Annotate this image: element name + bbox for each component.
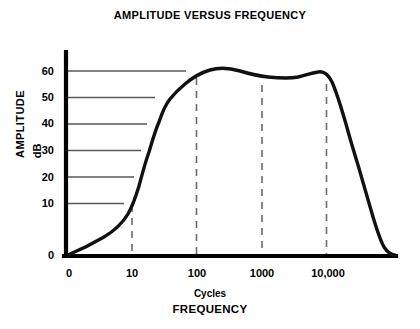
xtick-label-100: 100: [188, 267, 206, 279]
y-axis-label: AMPLITUDE: [14, 84, 26, 164]
plot-area: [0, 0, 420, 329]
xtick-label-10: 10: [126, 267, 138, 279]
ytick-label-0: 0: [28, 249, 54, 261]
ytick-label-20: 20: [28, 171, 54, 183]
chart-figure: AMPLITUDE VERSUS FREQUENCY 60 50 40 30 2…: [0, 0, 420, 329]
xtick-label-1000: 1000: [250, 267, 274, 279]
xtick-label-0: 0: [66, 267, 72, 279]
x-axis-label: FREQUENCY: [0, 303, 420, 315]
xtick-label-10000: 10,000: [311, 267, 345, 279]
x-axis-units-label: Cycles: [0, 288, 420, 299]
ytick-label-50: 50: [28, 91, 54, 103]
decade-dashed-lines: [132, 78, 327, 255]
ytick-label-40: 40: [28, 117, 54, 129]
y-axis-units-label: dB: [31, 138, 43, 164]
amplitude-response-curve: [68, 68, 395, 255]
gridlines: [67, 71, 186, 204]
ytick-label-10: 10: [28, 197, 54, 209]
ytick-label-60: 60: [28, 65, 54, 77]
